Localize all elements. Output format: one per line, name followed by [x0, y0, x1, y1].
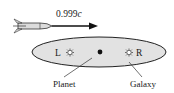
right-star-icon [125, 49, 133, 57]
right-star-label: R [136, 48, 143, 58]
rocket-icon [13, 19, 52, 33]
relativity-diagram: 0.999c L R [0, 0, 174, 93]
left-star-icon [66, 49, 74, 57]
planet-label: Planet [53, 79, 76, 89]
velocity-arrow [52, 23, 98, 30]
planet-dot [98, 50, 103, 55]
galaxy-label: Galaxy [130, 79, 156, 89]
speed-label: 0.999c [56, 9, 82, 19]
left-star-label: L [55, 48, 61, 58]
